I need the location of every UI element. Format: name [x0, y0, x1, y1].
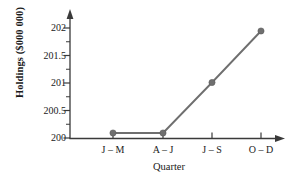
data-point [110, 130, 116, 136]
y-axis-arrowhead [67, 9, 74, 19]
data-line-series-holdings [113, 31, 261, 133]
line-chart-figure: Holdings ($000 000) 202 201.5 201 200.5 … [0, 0, 293, 184]
x-tick-label: O – D [231, 144, 291, 155]
plot-area [0, 0, 293, 184]
x-axis-title: Quarter [64, 161, 274, 172]
data-point [160, 130, 166, 136]
x-axis-arrowhead [275, 135, 285, 142]
data-point [209, 79, 215, 85]
y-major-ticks [64, 28, 71, 138]
data-point [258, 28, 264, 34]
data-point-markers [110, 28, 264, 136]
